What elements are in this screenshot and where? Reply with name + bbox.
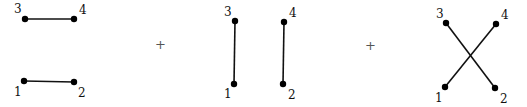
node-2 bbox=[280, 81, 286, 87]
plus-sign-1: + bbox=[155, 37, 166, 52]
node-4 bbox=[281, 19, 287, 25]
node-3 bbox=[22, 16, 28, 22]
diagram-3: 3 4 1 2 bbox=[435, 7, 509, 106]
diagram-2: 3 4 1 2 bbox=[224, 5, 297, 102]
diagram-1: 3 4 1 2 bbox=[14, 2, 87, 100]
node-3 bbox=[232, 18, 238, 24]
node-4 bbox=[71, 16, 77, 22]
edge-1-2 bbox=[24, 81, 74, 82]
node-3 bbox=[443, 20, 449, 26]
node-1 bbox=[442, 84, 448, 90]
edge-1-3 bbox=[234, 21, 235, 84]
label-1: 1 bbox=[224, 87, 232, 101]
label-4: 4 bbox=[79, 3, 87, 17]
plus-sign-2: + bbox=[365, 38, 376, 53]
node-1 bbox=[231, 81, 237, 87]
edge-1-4 bbox=[445, 24, 496, 87]
edge-2-4 bbox=[283, 22, 284, 84]
label-3: 3 bbox=[436, 7, 444, 21]
label-1: 1 bbox=[435, 91, 443, 105]
node-1 bbox=[21, 78, 27, 84]
node-2 bbox=[71, 79, 77, 85]
node-4 bbox=[493, 21, 499, 27]
label-3: 3 bbox=[224, 5, 232, 19]
label-4: 4 bbox=[501, 8, 509, 22]
label-2: 2 bbox=[500, 92, 508, 106]
label-3: 3 bbox=[14, 2, 22, 16]
label-2: 2 bbox=[288, 88, 296, 102]
label-2: 2 bbox=[78, 86, 86, 100]
label-1: 1 bbox=[14, 85, 22, 99]
pairing-diagrams-figure: 3 4 1 2 + 3 4 1 2 + 3 4 1 2 bbox=[0, 0, 527, 107]
label-4: 4 bbox=[289, 6, 297, 20]
node-2 bbox=[492, 85, 498, 91]
